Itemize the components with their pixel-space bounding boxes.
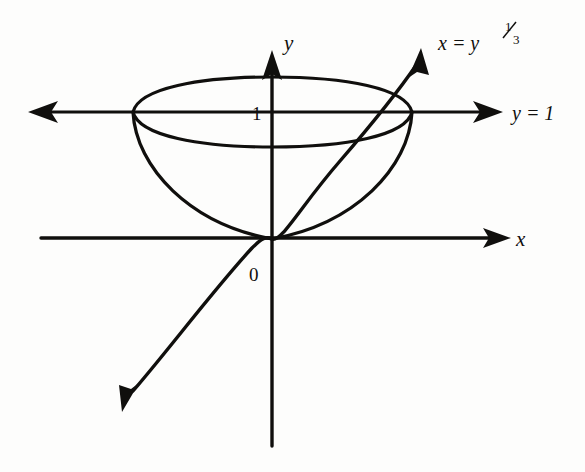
figure-container: y x 1 0 y = 1 x = y 1 3 [0,0,585,472]
curve-label-exponent-denominator: 3 [513,32,520,47]
math-figure-canvas: y x 1 0 y = 1 x = y 1 3 [0,0,585,472]
curve-lower-arrowhead-icon [119,383,139,412]
curve-label-base: x = y [437,32,479,55]
line-label-y-equals-1: y = 1 [510,102,554,125]
curve-upper-arrowhead-icon [408,48,429,78]
cube-root-curve-group [119,48,429,412]
x-axis-label: x [515,227,526,251]
line-y-equals-1-group [28,101,503,123]
y-tick-label-one: 1 [252,103,262,124]
curve-label-group: x = y 1 3 [437,19,520,55]
origin-label: 0 [249,264,259,285]
y-axis-group [262,50,282,446]
y-axis-label: y [282,31,294,55]
